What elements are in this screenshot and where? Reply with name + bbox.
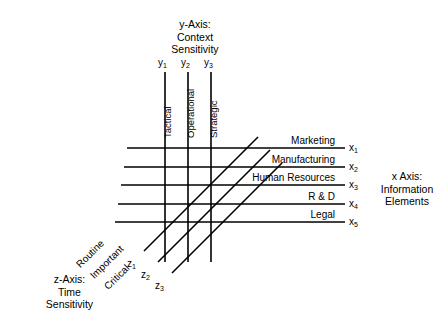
y-tick-sub-2: 2 [186,62,190,69]
x-tick-label-3: x3 [349,179,358,194]
y-tick-label-1: y1 [158,57,167,72]
x-axis-title: x Axis: Information Elements [372,170,442,208]
y-axis-title-line1: y-Axis: [145,18,245,31]
x-axis-title-line1: x Axis: [372,170,442,183]
x-category-label-human-resources: Human Resources [205,172,335,183]
y-tick-sub-3: 3 [209,62,213,69]
x-tick-label-5: x5 [349,216,358,231]
z-axis-title-line2: Time [22,286,117,299]
y-category-label-tactical: Tactical [162,106,173,138]
z-axis-title-line3: Sensitivity [22,298,117,311]
diagram-canvas: y-Axis: Context Sensitivity y1 y2 y3 Tac… [0,0,445,328]
x-tick-sub-3: 3 [354,184,358,191]
y-tick-sub-1: 1 [163,62,167,69]
y-category-label-strategic: Strategic [208,101,219,139]
x-tick-label-2: x2 [349,161,358,176]
x-tick-sub-4: 4 [354,203,358,210]
z-tick-sub-1: 1 [132,263,136,270]
y-tick-label-2: y2 [181,57,190,72]
x-axis-title-line2: Information [372,183,442,196]
z-tick-label-2: z2 [141,269,150,284]
x-tick-label-4: x4 [349,198,358,213]
y-tick-label-3: y3 [204,57,213,72]
z-tick-label-1: z1 [127,258,136,273]
y-axis-title: y-Axis: Context Sensitivity [145,18,245,56]
z-tick-sub-2: 2 [146,274,150,281]
x-tick-sub-5: 5 [354,221,358,228]
y-category-label-operational: Operational [185,89,196,138]
y-axis-title-line3: Sensitivity [145,43,245,56]
x-category-label-legal: Legal [225,209,335,220]
z-axis-title: z-Axis: Time Sensitivity [22,273,117,311]
z-tick-label-3: z3 [155,280,164,295]
z-axis-title-line1: z-Axis: [22,273,117,286]
z-tick-sub-3: 3 [160,285,164,292]
x-axis-title-line3: Elements [372,195,442,208]
x-tick-sub-1: 1 [354,147,358,154]
x-tick-sub-2: 2 [354,166,358,173]
y-axis-title-line2: Context [145,31,245,44]
x-category-label-rd: R & D [225,191,335,202]
x-category-label-marketing: Marketing [225,135,335,146]
x-category-label-manufacturing: Manufacturing [215,154,335,165]
x-tick-label-1: x1 [349,142,358,157]
